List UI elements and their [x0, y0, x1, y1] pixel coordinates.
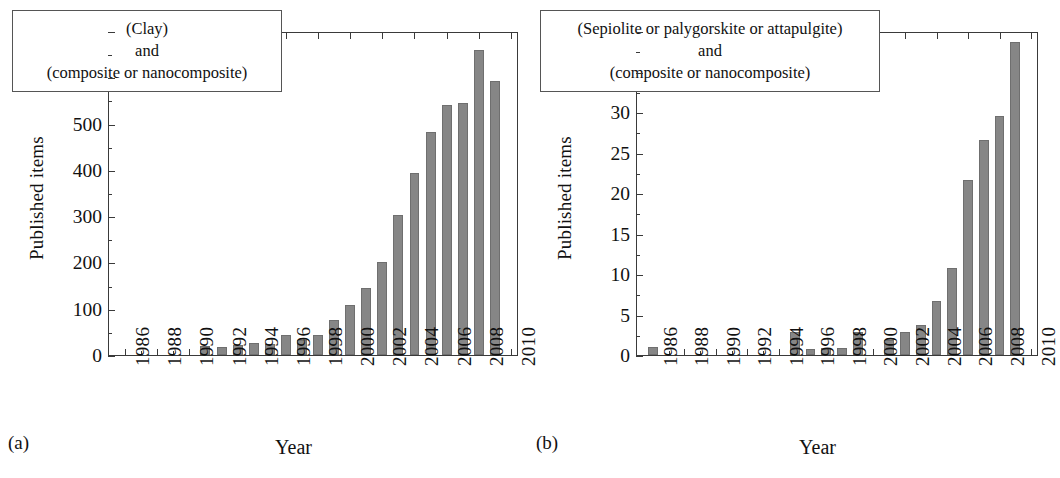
- y-minor-tick: [636, 255, 640, 256]
- x-tick-label: 2004: [421, 327, 443, 366]
- y-tick-mark: [636, 113, 643, 114]
- y-tick-mark: [636, 235, 643, 236]
- y-tick-mark: [108, 217, 115, 218]
- x-tick-mark: [779, 349, 780, 355]
- x-tick-label: 1998: [849, 327, 871, 366]
- x-tick-mark: [1031, 349, 1032, 355]
- top-tick-mark: [1000, 33, 1001, 39]
- top-tick-mark: [350, 33, 351, 39]
- caption-line: (Sepiolite or palygorskite or attapulgit…: [551, 18, 869, 40]
- caption-line: and: [23, 40, 271, 62]
- x-tick-label: 2006: [975, 327, 997, 366]
- top-tick-mark: [318, 33, 319, 39]
- y-tick-label: 10: [611, 265, 631, 285]
- y-tick-label: 30: [611, 103, 631, 123]
- x-tick-label: 2002: [389, 327, 411, 366]
- x-tick-label: 1988: [164, 327, 186, 366]
- bar: [442, 105, 452, 355]
- y-tick-mark: [636, 316, 643, 317]
- y-tick-label: 25: [611, 144, 631, 164]
- panel-a: Published items 0100200300400500600700 (…: [0, 0, 527, 478]
- x-tick-mark: [157, 349, 158, 355]
- y-tick-label: 15: [611, 225, 631, 245]
- y-minor-tick: [108, 101, 112, 102]
- top-tick-mark: [1031, 33, 1032, 39]
- y-tick-mark: [636, 275, 643, 276]
- x-tick-label: 1990: [196, 327, 218, 366]
- y-tick-mark: [108, 310, 115, 311]
- x-tick-mark: [684, 349, 685, 355]
- top-tick-mark: [905, 33, 906, 39]
- y-minor-tick: [108, 240, 112, 241]
- y-tick-mark: [108, 263, 115, 264]
- y-tick-mark: [636, 32, 643, 33]
- x-tick-label: 2002: [912, 327, 934, 366]
- y-tick-label: 5: [620, 306, 630, 326]
- y-tick-mark: [108, 125, 115, 126]
- caption-box-a: (Clay)and(composite or nanocomposite): [12, 10, 282, 92]
- x-tick-label: 2000: [880, 327, 902, 366]
- bar: [648, 347, 658, 355]
- y-tick-mark: [636, 356, 643, 357]
- top-tick-mark: [511, 33, 512, 39]
- caption-box-b: (Sepiolite or palygorskite or attapulgit…: [540, 10, 880, 92]
- x-tick-label: 1996: [293, 327, 315, 366]
- x-tick-label: 1998: [325, 327, 347, 366]
- x-tick-label: 1986: [132, 327, 154, 366]
- x-tick-label: 1988: [691, 327, 713, 366]
- panel-letter-a: (a): [8, 432, 29, 454]
- x-axis-title-a: Year: [30, 436, 557, 459]
- y-minor-tick: [108, 287, 112, 288]
- x-tick-mark: [716, 349, 717, 355]
- y-axis-label-a: Published items: [26, 136, 48, 260]
- y-tick-mark: [636, 194, 643, 195]
- x-tick-label: 1986: [660, 327, 682, 366]
- bar: [217, 347, 227, 355]
- x-tick-label: 2006: [454, 327, 476, 366]
- bar: [458, 103, 468, 355]
- top-tick-mark: [382, 33, 383, 39]
- y-tick-label: 0: [92, 346, 102, 366]
- y-axis-label-b: Published items: [554, 136, 576, 260]
- x-tick-label: 2008: [486, 327, 508, 366]
- y-tick-mark: [636, 154, 643, 155]
- y-minor-tick: [108, 148, 112, 149]
- caption-line: and: [551, 40, 869, 62]
- y-minor-tick: [636, 295, 640, 296]
- bar: [979, 140, 989, 355]
- top-tick-mark: [968, 33, 969, 39]
- y-minor-tick: [636, 336, 640, 337]
- y-tick-label: 300: [73, 207, 102, 227]
- top-tick-mark: [937, 33, 938, 39]
- y-tick-label: 400: [73, 161, 102, 181]
- y-tick-mark: [636, 73, 643, 74]
- x-tick-label: 2008: [1007, 327, 1029, 366]
- top-tick-mark: [286, 33, 287, 39]
- x-tick-label: 1992: [754, 327, 776, 366]
- bar: [995, 116, 1005, 355]
- x-tick-mark: [189, 349, 190, 355]
- caption-line: (composite or nanocomposite): [23, 62, 271, 84]
- y-minor-tick: [636, 174, 640, 175]
- bar: [1010, 42, 1020, 355]
- x-tick-label: 2010: [1038, 327, 1060, 366]
- y-minor-tick: [108, 333, 112, 334]
- panel-letter-b: (b): [536, 432, 558, 454]
- y-minor-tick: [636, 133, 640, 134]
- x-tick-mark: [747, 349, 748, 355]
- top-tick-mark: [479, 33, 480, 39]
- x-tick-label: 1990: [723, 327, 745, 366]
- y-tick-mark: [108, 32, 115, 33]
- y-tick-label: 20: [611, 184, 631, 204]
- x-tick-label: 1996: [817, 327, 839, 366]
- y-tick-mark: [108, 171, 115, 172]
- y-tick-mark: [108, 78, 115, 79]
- x-tick-mark: [873, 349, 874, 355]
- x-tick-label: 2000: [357, 327, 379, 366]
- y-minor-tick: [108, 55, 112, 56]
- y-tick-label: 100: [73, 300, 102, 320]
- y-minor-tick: [108, 194, 112, 195]
- x-axis-title-b: Year: [554, 436, 1060, 459]
- x-tick-mark: [511, 349, 512, 355]
